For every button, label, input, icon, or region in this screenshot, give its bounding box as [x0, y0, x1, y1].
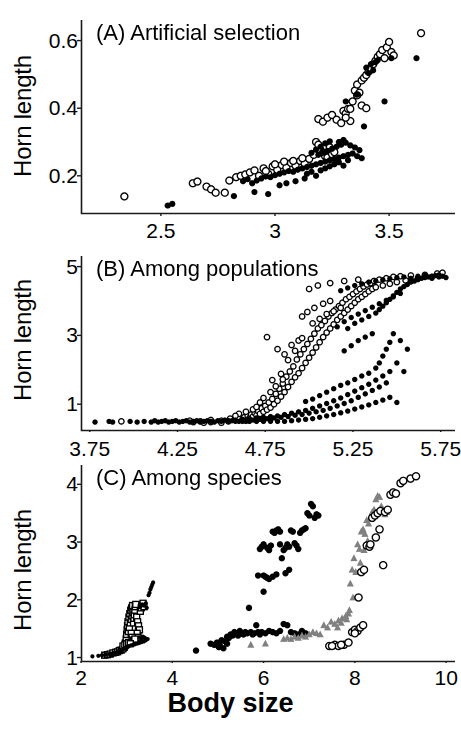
panel-c-y-ticks: 1234: [0, 447, 78, 692]
panel-a-y-ticks: 0.20.40.6: [0, 0, 78, 232]
panel-c-x-tick-label: 6: [258, 667, 270, 688]
panel-a-plot-canvas: [70, 18, 455, 216]
figure-x-axis-title: Body size: [0, 688, 461, 719]
panel-c-x-tick-label: 10: [434, 667, 457, 688]
panel-b-title: (B) Among populations: [96, 258, 319, 280]
panel-a-title: (A) Artificial selection: [96, 22, 300, 44]
panel-b-among-populations: Horn length 135 (B) Among populations 3.…: [0, 232, 461, 447]
figure-container: Horn length 0.20.40.6 (A) Artificial sel…: [0, 0, 461, 730]
panel-c-title: (C) Among species: [96, 467, 282, 489]
panel-c-x-tick-label: 4: [166, 667, 178, 688]
panel-b-y-ticks: 135: [0, 232, 78, 447]
panel-c-x-tick-label: 2: [75, 667, 87, 688]
panel-c-among-species: Horn length 1234 (C) Among species 24681…: [0, 447, 461, 692]
panel-c-x-tick-label: 8: [349, 667, 361, 688]
panel-c-plot-canvas: [70, 463, 455, 663]
panel-a-artificial-selection: Horn length 0.20.40.6 (A) Artificial sel…: [0, 0, 461, 232]
